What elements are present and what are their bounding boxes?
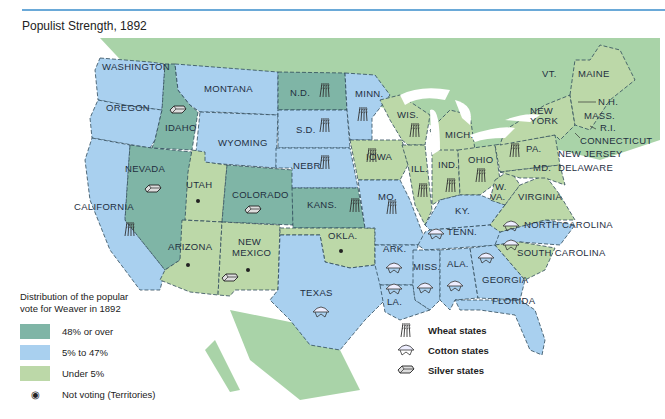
- svg-text:GEORGIA: GEORGIA: [482, 274, 529, 285]
- svg-text:ARIZONA: ARIZONA: [168, 241, 213, 252]
- svg-text:LA.: LA.: [387, 296, 402, 307]
- svg-text:UTAH: UTAH: [186, 179, 212, 190]
- svg-text:TENN.: TENN.: [447, 226, 477, 237]
- svg-text:R.I.: R.I.: [600, 122, 616, 133]
- svg-text:KANS.: KANS.: [307, 199, 337, 210]
- swatch: [20, 324, 50, 339]
- svg-text:FLORIDA: FLORIDA: [492, 295, 536, 306]
- svg-text:NEW JERSEY: NEW JERSEY: [558, 148, 623, 159]
- legend-item-under-5: Under 5%: [20, 363, 155, 383]
- svg-text:OKLA.: OKLA.: [328, 230, 358, 241]
- svg-text:ALA.: ALA.: [447, 258, 469, 269]
- svg-text:VIRGINIA: VIRGINIA: [518, 191, 562, 202]
- swatch: [20, 366, 50, 381]
- vote-legend: Distribution of the popular vote for Wea…: [20, 291, 155, 405]
- svg-text:CALIFORNIA: CALIFORNIA: [74, 201, 134, 212]
- svg-text:SOUTH CAROLINA: SOUTH CAROLINA: [517, 247, 606, 258]
- legend-item-not-voting: ◉ Not voting (Territories): [20, 384, 155, 404]
- svg-text:COLORADO: COLORADO: [232, 189, 289, 200]
- svg-text:N.H.: N.H.: [598, 96, 618, 107]
- svg-text:NEW: NEW: [238, 236, 261, 247]
- dot-icon: ◉: [20, 389, 50, 400]
- symbol-legend: Wheat states Cotton states Silver states: [392, 320, 489, 380]
- label-washington: WASHINGTON: [102, 61, 170, 72]
- svg-text:TEXAS: TEXAS: [300, 287, 333, 298]
- svg-text:MASS.: MASS.: [584, 110, 615, 121]
- svg-text:S.D.: S.D.: [296, 124, 316, 135]
- svg-text:NORTH CAROLINA: NORTH CAROLINA: [524, 219, 613, 230]
- svg-text:PA.: PA.: [526, 143, 542, 154]
- swatch: [20, 345, 50, 360]
- silver-icon: [397, 364, 415, 376]
- svg-text:MAINE: MAINE: [578, 68, 610, 79]
- svg-text:NEBR.: NEBR.: [293, 160, 324, 171]
- svg-text:IND.: IND.: [438, 159, 458, 170]
- svg-text:N.D.: N.D.: [290, 87, 310, 98]
- symbol-legend-cotton: Cotton states: [392, 340, 489, 360]
- svg-text:MONTANA: MONTANA: [204, 83, 253, 94]
- svg-text:NEVADA: NEVADA: [125, 163, 166, 174]
- svg-text:MINN.: MINN.: [355, 88, 383, 99]
- symbol-legend-wheat: Wheat states: [392, 320, 489, 340]
- svg-text:MISS.: MISS.: [413, 261, 440, 272]
- svg-text:KY.: KY.: [455, 205, 470, 216]
- svg-text:YORK: YORK: [530, 115, 558, 126]
- svg-text:MICH.: MICH.: [445, 129, 473, 140]
- legend-item-5-47: 5% to 47%: [20, 342, 155, 362]
- svg-text:CONNECTICUT: CONNECTICUT: [580, 135, 652, 146]
- svg-text:MO.: MO.: [378, 191, 397, 202]
- cotton-icon: [397, 343, 415, 357]
- svg-text:VA.: VA.: [490, 191, 506, 202]
- svg-text:OHIO: OHIO: [468, 154, 493, 165]
- legend-item-48-over: 48% or over: [20, 321, 155, 341]
- svg-text:MD.: MD.: [533, 162, 551, 173]
- svg-text:WIS.: WIS.: [397, 109, 419, 120]
- svg-text:ILL.: ILL.: [411, 163, 428, 174]
- svg-text:MEXICO: MEXICO: [232, 247, 271, 258]
- svg-text:ARK.: ARK.: [383, 243, 406, 254]
- svg-text:OREGON: OREGON: [106, 102, 150, 113]
- svg-text:WYOMING: WYOMING: [218, 137, 268, 148]
- wheat-icon: [399, 321, 413, 339]
- svg-text:VT.: VT.: [542, 68, 557, 79]
- symbol-legend-silver: Silver states: [392, 360, 489, 380]
- svg-text:DELAWARE: DELAWARE: [558, 162, 613, 173]
- svg-text:IDAHO: IDAHO: [165, 122, 197, 133]
